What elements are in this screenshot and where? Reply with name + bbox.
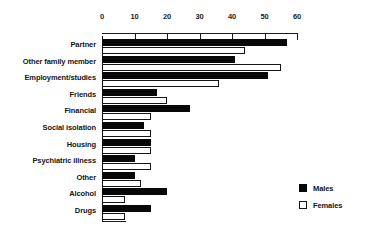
category-label: Drugs (0, 206, 96, 215)
legend-item-males: Males (299, 181, 369, 195)
bar-males (102, 139, 151, 146)
legend-label-males: Males (313, 184, 333, 193)
bar-males (102, 39, 287, 46)
x-axis-tick-label: 30 (196, 12, 204, 21)
bar-females (102, 196, 125, 203)
bar-males (102, 105, 190, 112)
bar-males (102, 122, 144, 129)
bar-females (102, 163, 151, 170)
legend-item-females: Females (299, 198, 369, 212)
x-axis-tick-label: 10 (131, 12, 139, 21)
bar-females (102, 180, 141, 187)
bar-males (102, 56, 235, 63)
bar-chart: 0102030405060 PartnerOther family member… (0, 0, 372, 237)
bar-males (102, 155, 135, 162)
x-axis-tick (297, 33, 298, 40)
category-label: Psychiatric illness (0, 156, 96, 165)
bar-females (102, 80, 219, 87)
x-axis-tick-label: 0 (100, 12, 104, 21)
bar-females (102, 113, 151, 120)
category-label: Other family member (0, 57, 96, 66)
legend-swatch-males-icon (299, 184, 307, 192)
category-label: Other (0, 173, 96, 182)
category-label: Financial (0, 106, 96, 115)
bar-females (102, 213, 125, 220)
bar-males (102, 89, 157, 96)
bar-females (102, 47, 245, 54)
bar-males (102, 188, 167, 195)
x-axis-tick-label: 20 (163, 12, 171, 21)
bar-females (102, 64, 281, 71)
bar-males (102, 172, 135, 179)
legend-label-females: Females (313, 201, 342, 210)
x-axis-bottom-rule (102, 221, 126, 222)
category-label: Social isolation (0, 123, 96, 132)
x-axis-tick-label: 60 (293, 12, 301, 21)
category-label: Employment/studies (0, 73, 96, 82)
bar-females (102, 147, 151, 154)
bar-females (102, 97, 167, 104)
category-label: Housing (0, 140, 96, 149)
category-label: Friends (0, 90, 96, 99)
bar-females (102, 130, 151, 137)
bar-males (102, 72, 268, 79)
bar-males (102, 205, 151, 212)
category-label: Partner (0, 40, 96, 49)
legend-swatch-females-icon (299, 201, 307, 209)
x-axis-tick-label: 40 (228, 12, 236, 21)
x-axis-tick-label: 50 (261, 12, 269, 21)
chart-legend: Males Females (299, 181, 369, 215)
category-label: Alcohol (0, 189, 96, 198)
